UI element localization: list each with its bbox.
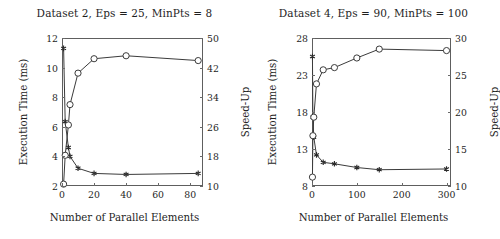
series-line-speedup [64, 56, 199, 184]
data-point-marker-circle [195, 57, 201, 63]
y-axis-right-tick-label: 10 [207, 181, 219, 192]
y-axis-right-tick-label: 20 [455, 107, 467, 118]
y-axis-right-tick-label: 15 [455, 144, 467, 155]
data-point-marker-circle [91, 56, 97, 62]
data-point-marker-circle [311, 114, 317, 120]
data-point-marker-circle [67, 102, 73, 108]
x-axis-tick-label: 40 [120, 189, 132, 200]
y-axis-right-tick-mark [200, 38, 203, 39]
y-axis-left-tick-mark [312, 75, 315, 76]
x-axis-tick-mark [158, 183, 159, 186]
data-point-marker-star [61, 46, 66, 52]
x-axis-tick-label: 80 [184, 189, 196, 200]
y-axis-left-tick-mark [312, 149, 315, 150]
y-axis-left-tick-label: 13 [296, 144, 308, 155]
y-axis-left-tick-mark [62, 186, 65, 187]
series-line-execution-time [64, 48, 199, 174]
y-axis-left-tick-mark [62, 156, 65, 157]
x-axis-tick-mark [126, 183, 127, 186]
y-axis-left-tick-label: 2 [52, 181, 58, 192]
y-axis-right-tick-mark [200, 186, 203, 187]
data-point-marker-circle [354, 55, 360, 61]
x-axis-tick-label: 20 [88, 189, 100, 200]
y-axis-left-tick-mark [312, 38, 315, 39]
y-axis-left-tick-mark [62, 97, 65, 98]
y-axis-left-tick-label: 28 [296, 33, 308, 44]
x-axis-tick-label: 60 [152, 189, 164, 200]
data-point-marker-star [310, 54, 315, 60]
y-axis-right-tick-label: 34 [207, 92, 219, 103]
x-axis-label: Number of Parallel Elements [0, 212, 249, 223]
y-axis-right-tick-mark [200, 127, 203, 128]
y-axis-right-tick-mark [200, 97, 203, 98]
y-axis-left-tick-mark [312, 112, 315, 113]
x-axis-tick-label: 100 [348, 189, 366, 200]
data-point-marker-circle [313, 81, 319, 87]
y-axis-right-tick-label: 18 [207, 151, 219, 162]
x-axis-tick-mark [94, 183, 95, 186]
y-axis-right-tick-label: 25 [455, 70, 467, 81]
x-axis-tick-mark [402, 183, 403, 186]
x-axis-tick-label: 0 [59, 189, 65, 200]
series-line-execution-time [312, 57, 446, 170]
y-axis-right-tick-label: 50 [207, 33, 219, 44]
y-axis-left-tick-label: 4 [52, 151, 58, 162]
data-point-marker-circle [443, 47, 449, 53]
data-point-marker-circle [309, 174, 315, 180]
y-axis-right-tick-label: 42 [207, 62, 219, 73]
x-axis-tick-label: 200 [393, 189, 411, 200]
y-axis-right-tick-mark [448, 186, 451, 187]
data-point-marker-circle [75, 70, 81, 76]
y-axis-left-tick-label: 6 [52, 121, 58, 132]
y-axis-left-tick-mark [62, 127, 65, 128]
y-axis-left-tick-mark [62, 68, 65, 69]
x-axis-tick-label: 0 [309, 189, 315, 200]
data-point-marker-circle [320, 67, 326, 73]
y-axis-left-tick-label: 10 [46, 62, 58, 73]
chart-panel-dataset-2: Dataset 2, Eps = 25, MinPts = 8 02040608… [0, 0, 249, 239]
y-axis-right-tick-mark [448, 75, 451, 76]
data-point-marker-circle [310, 133, 316, 139]
y-axis-right-tick-label: 30 [455, 33, 467, 44]
chart-panel-dataset-4: Dataset 4, Eps = 90, MinPts = 100 010020… [249, 0, 498, 239]
y-axis-label-left: Execution Time (ms) [267, 59, 278, 166]
y-axis-label-left: Execution Time (ms) [18, 59, 29, 166]
y-axis-left-tick-label: 12 [46, 33, 58, 44]
y-axis-left-tick-label: 23 [296, 70, 308, 81]
y-axis-right-tick-label: 10 [455, 181, 467, 192]
y-axis-right-tick-mark [200, 68, 203, 69]
data-point-marker-circle [331, 65, 337, 71]
data-point-marker-circle [62, 152, 68, 158]
x-axis-tick-label: 300 [438, 189, 456, 200]
y-axis-right-tick-mark [448, 38, 451, 39]
x-axis-tick-mark [357, 183, 358, 186]
data-point-marker-circle [65, 122, 71, 128]
y-axis-left-tick-label: 8 [302, 181, 308, 192]
y-axis-left-tick-label: 18 [296, 107, 308, 118]
data-point-marker-circle [376, 46, 382, 52]
y-axis-left-tick-label: 8 [52, 92, 58, 103]
y-axis-left-tick-mark [62, 38, 65, 39]
y-axis-right-tick-mark [448, 149, 451, 150]
y-axis-left-tick-mark [312, 186, 315, 187]
x-axis-label: Number of Parallel Elements [249, 212, 498, 223]
y-axis-right-tick-label: 26 [207, 121, 219, 132]
y-axis-right-tick-mark [448, 112, 451, 113]
y-axis-label-right: Speed-Up [489, 87, 500, 138]
y-axis-right-tick-mark [200, 156, 203, 157]
data-point-marker-circle [123, 53, 129, 59]
x-axis-tick-mark [190, 183, 191, 186]
